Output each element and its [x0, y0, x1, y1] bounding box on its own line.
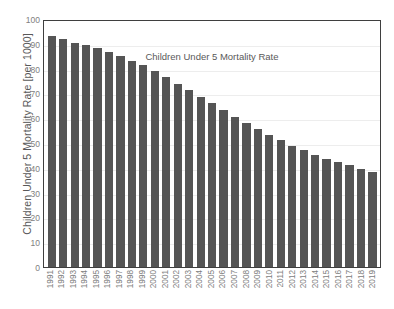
chart-container: Children Under 5 Mortality Rate [per 100… — [0, 0, 394, 309]
x-axis-tick-label: 2014 — [312, 270, 320, 288]
x-tick-slot: 1991 — [45, 270, 57, 308]
bar — [334, 162, 342, 267]
bar-slot — [309, 21, 320, 267]
bar-slot — [115, 21, 126, 267]
x-tick-slot: 2002 — [172, 270, 184, 308]
x-axis-tick-label: 2010 — [265, 270, 273, 288]
x-tick-slot: 2006 — [218, 270, 230, 308]
bar — [197, 97, 205, 267]
x-axis-tick-label: 1995 — [93, 270, 101, 288]
x-axis-tick-label: 2009 — [254, 270, 262, 288]
x-axis-tick-labels: 1991199219931994199519961997199819992000… — [43, 270, 381, 308]
bar — [151, 71, 159, 267]
x-tick-slot: 1995 — [91, 270, 103, 308]
x-axis-tick-label: 2013 — [300, 270, 308, 288]
bar-slot — [321, 21, 332, 267]
x-tick-slot: 1996 — [103, 270, 115, 308]
x-axis-tick-label: 2017 — [346, 270, 354, 288]
x-axis-tick-label: 1992 — [58, 270, 66, 288]
bar — [322, 159, 330, 267]
x-axis-tick-label: 1991 — [47, 270, 55, 288]
bar — [59, 39, 67, 267]
bar-slot — [149, 21, 160, 267]
y-axis-tick-label: 20 — [14, 214, 40, 223]
y-axis-tick-label: 80 — [14, 65, 40, 74]
y-axis-tick-label: 50 — [14, 140, 40, 149]
x-axis-tick-label: 2008 — [242, 270, 250, 288]
x-tick-slot: 2013 — [298, 270, 310, 308]
bar-slot — [46, 21, 57, 267]
x-axis-tick-label: 2000 — [150, 270, 158, 288]
bar — [185, 90, 193, 267]
x-axis-tick-label: 2011 — [277, 270, 285, 288]
x-tick-slot: 2008 — [241, 270, 253, 308]
x-tick-slot: 2018 — [356, 270, 368, 308]
bar-slot — [172, 21, 183, 267]
x-tick-slot: 1993 — [68, 270, 80, 308]
x-tick-slot: 2001 — [160, 270, 172, 308]
bar-slot — [367, 21, 378, 267]
bar-slot — [275, 21, 286, 267]
bar — [300, 150, 308, 267]
x-tick-slot: 2016 — [333, 270, 345, 308]
x-axis-tick-label: 2003 — [185, 270, 193, 288]
bar — [139, 65, 147, 267]
bar — [288, 146, 296, 267]
x-axis-tick-label: 1997 — [116, 270, 124, 288]
x-axis-tick-label: 1999 — [139, 270, 147, 288]
x-tick-slot: 1994 — [80, 270, 92, 308]
x-tick-slot: 1998 — [126, 270, 138, 308]
x-axis-tick-label: 2016 — [335, 270, 343, 288]
x-axis-tick-label: 1994 — [81, 270, 89, 288]
bar-slot — [298, 21, 309, 267]
x-axis-tick-label: 1998 — [127, 270, 135, 288]
x-axis-tick-label: 2006 — [219, 270, 227, 288]
bar — [93, 48, 101, 267]
x-tick-slot: 2012 — [287, 270, 299, 308]
bar — [208, 103, 216, 267]
bar-slot — [138, 21, 149, 267]
x-tick-slot: 2014 — [310, 270, 322, 308]
x-axis-tick-label: 2015 — [323, 270, 331, 288]
bar-series — [44, 21, 380, 267]
bar-slot — [264, 21, 275, 267]
bar — [219, 110, 227, 267]
bar-slot — [287, 21, 298, 267]
bar — [116, 56, 124, 267]
bar — [254, 129, 262, 267]
bar — [162, 77, 170, 267]
bar — [48, 36, 56, 267]
x-tick-slot: 1992 — [57, 270, 69, 308]
y-axis-tick-label: 100 — [14, 16, 40, 25]
bar-slot — [161, 21, 172, 267]
x-tick-slot: 2017 — [344, 270, 356, 308]
x-axis-tick-label: 2019 — [369, 270, 377, 288]
bar — [82, 45, 90, 267]
x-tick-slot: 2010 — [264, 270, 276, 308]
y-axis-tick-label: 10 — [14, 239, 40, 248]
plot-area: Children Under 5 Mortality Rate — [43, 20, 381, 268]
bar-slot — [80, 21, 91, 267]
bar-slot — [332, 21, 343, 267]
y-axis-tick-labels: 1009080706050403020100 — [14, 20, 40, 268]
x-tick-slot: 2007 — [229, 270, 241, 308]
x-axis-tick-label: 2007 — [231, 270, 239, 288]
bar — [357, 169, 365, 267]
bar — [345, 165, 353, 267]
y-axis-tick-label: 30 — [14, 189, 40, 198]
x-tick-slot: 2000 — [149, 270, 161, 308]
bar-slot — [195, 21, 206, 267]
bar-slot — [126, 21, 137, 267]
x-axis-tick-label: 2018 — [358, 270, 366, 288]
y-axis-tick-label: 0 — [14, 264, 40, 273]
bar-slot — [241, 21, 252, 267]
bar-slot — [218, 21, 229, 267]
x-axis-tick-label: 2012 — [288, 270, 296, 288]
x-axis-tick-label: 1993 — [70, 270, 78, 288]
x-axis-tick-label: 2004 — [196, 270, 204, 288]
x-axis-tick-label: 2002 — [173, 270, 181, 288]
bar — [128, 61, 136, 267]
bar — [174, 84, 182, 267]
bar — [277, 140, 285, 267]
x-tick-slot: 2009 — [252, 270, 264, 308]
